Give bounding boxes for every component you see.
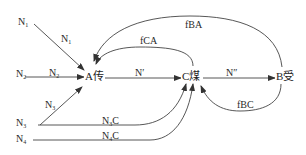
label-n3-to-c: N3C [102,116,119,126]
label-c-to-a: fCA [140,36,157,46]
label-n4-to-c-suffix: C [112,130,119,141]
source-n4-sub: 4 [23,139,26,145]
edge-n1-to-a [34,24,84,70]
source-n1-sub: 1 [25,22,28,28]
node-c: C煤 [181,71,201,82]
label-a-to-c: N′ [135,68,144,78]
label-n3-to-a-sub: 3 [52,105,55,111]
label-n3-to-a: N3 [45,100,55,110]
node-a: A传 [84,71,105,82]
source-n3: N3 [16,118,26,128]
label-b-to-c: fBC [237,100,254,110]
node-b: B受 [275,71,295,82]
source-n4: N4 [16,134,26,144]
source-n2: N2 [16,69,26,79]
edge-c-to-a [96,47,193,66]
label-n4-to-c: N4C [102,131,119,141]
source-n1: N1 [18,17,28,27]
label-n1-to-a-sub: 1 [68,39,71,45]
flow-diagram: A传 C煤 B受 N1 N2 N3 N4 N1 N2 N3 N3C N4C N′… [0,0,306,155]
source-n3-sub: 3 [23,123,26,129]
edges-layer [0,0,306,155]
source-n2-sub: 2 [23,74,26,80]
label-n1-to-a: N1 [61,34,71,44]
label-b-to-a: fBA [185,20,202,30]
label-c-to-b: N″ [226,68,237,78]
label-n2-to-a-sub: 2 [56,73,59,79]
label-n3-to-c-suffix: C [112,115,119,126]
label-n2-to-a: N2 [49,68,59,78]
